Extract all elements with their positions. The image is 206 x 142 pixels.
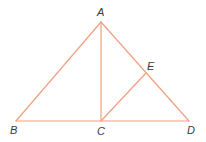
label-C: C: [97, 125, 105, 137]
geometry-diagram: A B C D E: [0, 0, 206, 142]
label-A: A: [96, 6, 104, 18]
segment-CE: [101, 73, 146, 121]
label-D: D: [187, 124, 195, 136]
segments-group: [16, 22, 189, 121]
label-E: E: [147, 60, 155, 72]
labels-group: A B C D E: [10, 6, 195, 137]
label-B: B: [10, 124, 17, 136]
segment-AB: [16, 22, 101, 121]
